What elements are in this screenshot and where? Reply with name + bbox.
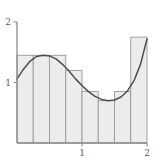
- riemann-bar: [131, 37, 147, 143]
- y-axis-tick-label: 1: [5, 78, 11, 88]
- riemann-bar: [66, 70, 82, 143]
- x-axis-tick-label: 2: [144, 148, 150, 158]
- riemann-bar: [33, 55, 49, 143]
- riemann-sum-figure: 1212: [0, 0, 155, 165]
- riemann-bar: [98, 101, 114, 143]
- riemann-bar: [82, 92, 98, 143]
- riemann-bar: [17, 55, 33, 143]
- y-axis-tick-label: 2: [5, 17, 11, 27]
- x-axis-tick-label: 1: [79, 148, 85, 158]
- plot-svg: 1212: [0, 0, 155, 165]
- riemann-bar: [50, 55, 66, 143]
